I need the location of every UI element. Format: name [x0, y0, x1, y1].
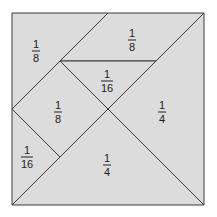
tangram-diagram: 1 8 1 8 1 16 1 8 1 4 1 16 1 4	[0, 0, 217, 217]
denominator: 16	[101, 82, 113, 94]
numerator: 1	[104, 152, 110, 164]
numerator: 1	[33, 38, 39, 50]
label-left-square: 1 8	[54, 99, 62, 125]
numerator: 1	[129, 27, 135, 39]
numerator: 1	[104, 68, 110, 80]
label-bottom-large-triangle: 1 4	[103, 152, 111, 178]
denominator: 4	[159, 113, 165, 125]
numerator: 1	[159, 99, 165, 111]
numerator: 1	[55, 99, 61, 111]
denominator: 4	[104, 166, 110, 178]
label-top-parallelogram: 1 8	[128, 27, 136, 53]
label-right-large-triangle: 1 4	[158, 99, 166, 125]
denominator: 8	[33, 52, 39, 64]
numerator: 1	[24, 144, 30, 156]
denominator: 8	[55, 113, 61, 125]
denominator: 8	[129, 41, 135, 53]
denominator: 16	[21, 158, 33, 170]
label-top-left: 1 8	[32, 38, 40, 64]
